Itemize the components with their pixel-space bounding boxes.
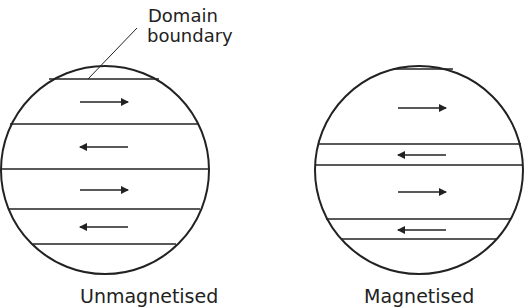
left-specimen-circle — [1, 66, 209, 274]
annotation-boundary: boundary — [147, 25, 233, 46]
caption-magnetised: Magnetised — [364, 285, 474, 307]
magnetised-panel: Magnetised — [315, 66, 523, 307]
annotation-domain: Domain — [148, 5, 218, 26]
annotation-leader-line — [88, 28, 137, 79]
magnetic-domains-diagram: Unmagnetised Domain boundary Magnetised — [0, 0, 525, 308]
unmagnetised-panel: Unmagnetised — [1, 28, 218, 307]
left-domain-boundaries — [1, 79, 209, 244]
caption-unmagnetised: Unmagnetised — [80, 285, 218, 307]
right-specimen-circle — [315, 66, 523, 274]
